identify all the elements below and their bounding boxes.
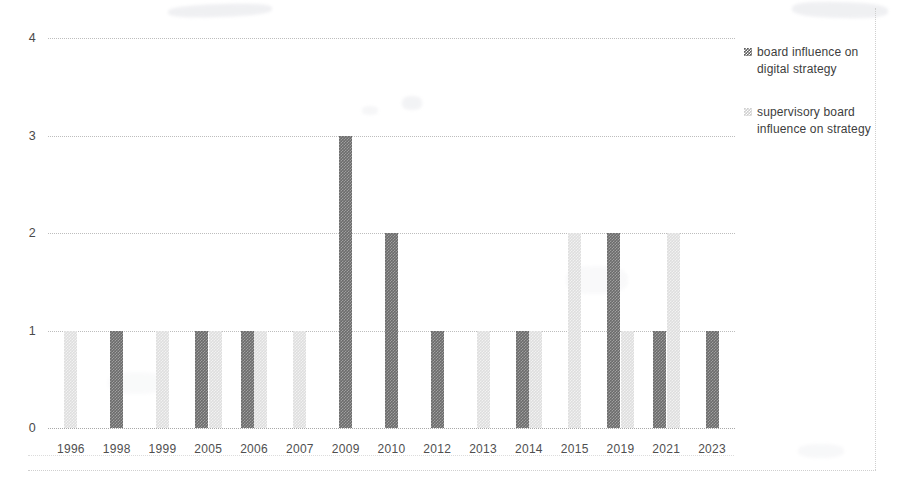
y-tick-label: 3 <box>29 129 36 143</box>
bar[interactable] <box>529 331 542 429</box>
x-tick-label: 2015 <box>561 442 589 456</box>
legend-label: supervisory board influence on strategy <box>757 104 876 138</box>
bar[interactable] <box>209 331 222 429</box>
bar[interactable] <box>110 331 123 429</box>
x-tick-label: 2023 <box>698 442 726 456</box>
bar-group <box>323 38 369 428</box>
x-tick-label: 2005 <box>194 442 222 456</box>
x-tick-label: 2009 <box>332 442 360 456</box>
x-tick-label: 2021 <box>652 442 680 456</box>
chart-page: 01234 1996199819992005200620072009201020… <box>0 0 897 482</box>
x-tick-label: 1999 <box>149 442 177 456</box>
legend-light-swatch-icon <box>744 108 752 116</box>
bar[interactable] <box>195 331 208 429</box>
x-tick-label: 2012 <box>423 442 451 456</box>
bar[interactable] <box>667 233 680 428</box>
scan-artifact <box>798 444 844 458</box>
chart-legend: board influence on digital strategysuper… <box>744 44 876 164</box>
bar[interactable] <box>516 331 529 429</box>
bar-group <box>48 38 94 428</box>
page-frame-bottom-edge <box>28 470 876 471</box>
x-tick-label: 2007 <box>286 442 314 456</box>
bar[interactable] <box>706 331 719 429</box>
x-tick-label: 2006 <box>240 442 268 456</box>
bar-group <box>277 38 323 428</box>
x-tick-label: 1996 <box>57 442 85 456</box>
bar-group <box>94 38 140 428</box>
y-tick-label: 1 <box>29 324 36 338</box>
bar[interactable] <box>568 233 581 428</box>
bar-group <box>643 38 689 428</box>
bar[interactable] <box>385 233 398 428</box>
scan-artifact <box>168 2 272 19</box>
bar[interactable] <box>653 331 666 429</box>
x-tick-label: 2013 <box>469 442 497 456</box>
bar-group <box>369 38 415 428</box>
bar[interactable] <box>156 331 169 429</box>
x-tick-label: 2014 <box>515 442 543 456</box>
legend-entry[interactable]: supervisory board influence on strategy <box>744 104 876 138</box>
bar[interactable] <box>254 331 267 429</box>
bar[interactable] <box>293 331 306 429</box>
bar-group <box>140 38 186 428</box>
bar[interactable] <box>477 331 490 429</box>
bar[interactable] <box>431 331 444 429</box>
bar-group <box>598 38 644 428</box>
bar-group <box>231 38 277 428</box>
bar-group <box>414 38 460 428</box>
scan-artifact <box>792 1 888 20</box>
bar-group <box>552 38 598 428</box>
y-tick-label: 2 <box>29 226 36 240</box>
bar[interactable] <box>339 136 352 429</box>
y-tick-label: 0 <box>29 421 36 435</box>
legend-entry[interactable]: board influence on digital strategy <box>744 44 876 78</box>
x-tick-label: 2019 <box>607 442 635 456</box>
legend-label: board influence on digital strategy <box>757 44 876 78</box>
bar[interactable] <box>241 331 254 429</box>
bar-group <box>506 38 552 428</box>
bar[interactable] <box>64 331 77 429</box>
bar[interactable] <box>621 331 634 429</box>
x-tick-label: 2010 <box>378 442 406 456</box>
bar[interactable] <box>607 233 620 428</box>
bars-layer <box>48 38 735 428</box>
y-tick-label: 4 <box>29 31 36 45</box>
x-axis-tick-labels: 1996199819992005200620072009201020122013… <box>48 428 735 454</box>
x-tick-label: 1998 <box>103 442 131 456</box>
bar-group <box>689 38 735 428</box>
plot-area: 01234 <box>48 38 735 428</box>
bar-group <box>460 38 506 428</box>
legend-dark-swatch-icon <box>744 48 752 56</box>
bar-group <box>185 38 231 428</box>
